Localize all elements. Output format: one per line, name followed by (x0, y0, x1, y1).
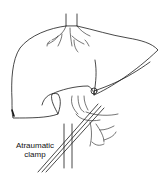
label-line-1: Atraumatic (9, 141, 61, 150)
inferior-vena-cava-top (66, 14, 77, 26)
liver-diagram: Atraumatic clamp (0, 0, 168, 177)
atraumatic-clamp-label: Atraumatic clamp (9, 141, 61, 159)
falciform-ligament (94, 62, 150, 91)
portal-structures (71, 96, 118, 146)
gallbladder (42, 93, 60, 114)
hepatic-vein-branches (47, 26, 90, 52)
atraumatic-clamp (38, 104, 104, 172)
lower-lobe-contour (94, 60, 96, 95)
label-line-2: clamp (9, 150, 61, 159)
